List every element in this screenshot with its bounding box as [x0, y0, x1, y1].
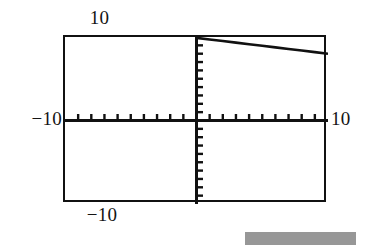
- data-series-group: [197, 38, 329, 54]
- plot-canvas: [65, 37, 328, 204]
- plot-frame: [63, 35, 326, 202]
- series-line-0: [197, 38, 329, 54]
- scan-artifact-bar: [245, 232, 356, 245]
- x-axis-max-label: 10: [331, 109, 351, 128]
- graph-figure: 10 −10 10 −10: [0, 0, 367, 245]
- x-axis-min-label: −10: [18, 109, 62, 128]
- y-axis-min-label: −10: [0, 205, 298, 224]
- y-axis-max-label: 10: [0, 8, 293, 27]
